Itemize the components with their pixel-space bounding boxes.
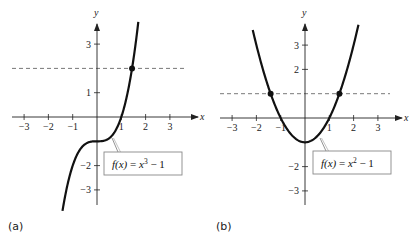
y-tick-label: −3 [288, 185, 299, 196]
y-axis-label: y [93, 7, 99, 18]
x-tick-label: −3 [19, 121, 30, 132]
y-tick-label: −3 [80, 184, 91, 195]
panel-label: (b) [216, 220, 232, 233]
x-tick-label: −2 [251, 122, 262, 133]
x-tick-label: 3 [375, 122, 380, 133]
y-tick-label: 3 [86, 39, 91, 50]
y-tick-label: −2 [80, 160, 91, 171]
function-curve [253, 25, 359, 143]
panel-a: xy−3−2−112331−2−3f(x) = x3 − 1(a) [8, 7, 205, 233]
panel-b: xy−3−2−112332−2−3f(x) = x2 − 1(b) [216, 7, 409, 233]
x-tick-label: −2 [43, 121, 54, 132]
function-label: f(x) = x2 − 1 [321, 156, 374, 170]
function-label: f(x) = x3 − 1 [112, 157, 165, 171]
y-tick-label: 3 [294, 40, 299, 51]
figure: xy−3−2−112331−2−3f(x) = x3 − 1(a) xy−3−2… [0, 0, 412, 239]
x-tick-label: 2 [351, 122, 356, 133]
x-tick-label: −3 [227, 122, 238, 133]
x-axis-label: x [403, 112, 409, 123]
x-axis-label: x [199, 111, 205, 122]
y-axis-label: y [301, 7, 307, 18]
x-tick-label: 3 [167, 121, 172, 132]
panel-label: (a) [8, 220, 23, 233]
x-tick-label: 2 [143, 121, 148, 132]
intersection-point [336, 91, 342, 97]
y-tick-label: 1 [86, 87, 91, 98]
y-tick-label: 2 [294, 64, 299, 75]
y-tick-label: −2 [288, 161, 299, 172]
intersection-point [268, 91, 274, 97]
function-curve [62, 22, 138, 211]
intersection-point [129, 65, 135, 71]
x-tick-label: −1 [67, 121, 78, 132]
